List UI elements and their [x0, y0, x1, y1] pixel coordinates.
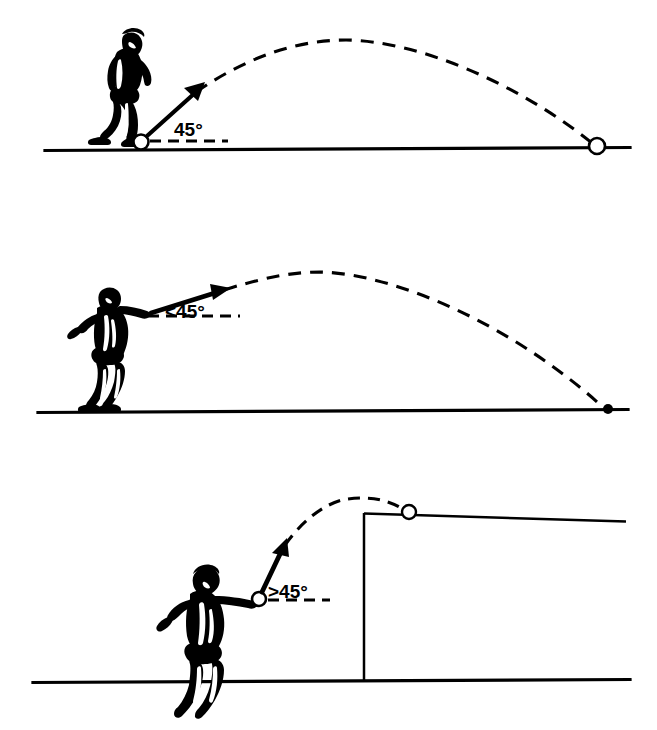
trajectory-greater-than-45-degrees [285, 498, 404, 545]
projectile-angle-figure: 45° [0, 0, 657, 730]
soccer-player-silhouette [88, 28, 151, 147]
figure-svg: 45° [0, 0, 657, 730]
ground-line-panel-1 [45, 148, 630, 151]
panel-1-soccer-kick: 45° [45, 28, 630, 154]
angle-label-panel-3: >45° [268, 581, 308, 602]
ground-line-panel-2 [38, 410, 628, 413]
wall-obstacle [364, 513, 626, 682]
angle-label-panel-2: <45° [165, 301, 205, 322]
soccer-ball-landing [589, 138, 605, 154]
ball-launch-panel-3 [252, 592, 266, 606]
trajectory-45-degrees [196, 40, 592, 143]
person-throwing-silhouette [156, 564, 257, 718]
panel-2-shot-put: <45° [38, 272, 628, 414]
trajectory-less-than-45-degrees [224, 272, 606, 410]
ball-landing-on-wall [402, 505, 416, 519]
ground-line-panel-3 [33, 680, 630, 683]
panel-3-throw-over-wall: >45° [33, 498, 630, 719]
shot-putter-silhouette [67, 288, 150, 413]
angle-label-panel-1: 45° [174, 119, 203, 140]
shot-put-landing-dot [603, 404, 613, 414]
